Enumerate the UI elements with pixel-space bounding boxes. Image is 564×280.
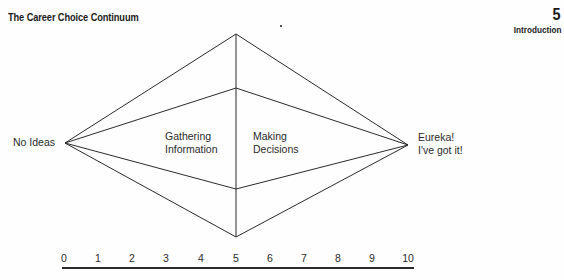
tick-6: 6 [267,252,273,264]
tick-4: 4 [198,252,204,264]
tick-2: 2 [129,252,135,264]
label-gathering-line2: Information [165,143,218,156]
tick-8: 8 [335,252,341,264]
label-gathering-information: Gathering Information [165,130,218,156]
axis-line [62,267,414,269]
label-eureka-line2: I've got it! [418,144,463,157]
tick-1: 1 [95,252,101,264]
tick-5: 5 [233,252,239,264]
label-eureka-line1: Eureka! [418,131,463,144]
tick-7: 7 [301,252,307,264]
clipped-caption [66,272,286,280]
tick-10: 10 [402,252,414,264]
tick-3: 3 [163,252,169,264]
label-no-ideas: No Ideas [13,136,55,149]
label-making-line2: Decisions [253,143,299,156]
page: The Career Choice Continuum 5 Introducti… [0,0,564,280]
label-gathering-line1: Gathering [165,130,218,143]
tick-0: 0 [61,252,67,264]
label-making-decisions: Making Decisions [253,130,299,156]
label-making-line1: Making [253,130,299,143]
label-eureka: Eureka! I've got it! [418,131,463,157]
tick-9: 9 [369,252,375,264]
